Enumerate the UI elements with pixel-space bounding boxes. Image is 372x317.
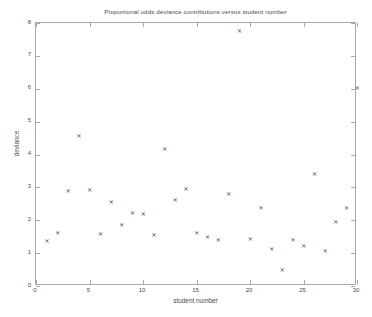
y-tick-2 (36, 220, 40, 221)
x-tick-20 (250, 280, 251, 284)
y-tick-label-1: 1 (17, 249, 31, 255)
y-tick-label-6: 6 (17, 84, 31, 90)
data-point (322, 249, 327, 254)
data-point (108, 200, 113, 205)
y-tick-right-2 (351, 220, 355, 221)
data-point (55, 231, 60, 236)
data-point (290, 238, 295, 243)
data-point (130, 211, 135, 216)
x-tick-top-10 (143, 23, 144, 27)
y-tick-right-7 (351, 56, 355, 57)
y-tick-label-0: 0 (17, 282, 31, 288)
x-tick-25 (304, 280, 305, 284)
x-tick-5 (90, 280, 91, 284)
x-tick-top-20 (250, 23, 251, 27)
data-point (162, 147, 167, 152)
y-tick-label-2: 2 (17, 216, 31, 222)
y-tick-8 (36, 23, 40, 24)
x-tick-top-30 (357, 23, 358, 27)
data-point (183, 187, 188, 192)
y-tick-right-4 (351, 155, 355, 156)
data-point (205, 235, 210, 240)
data-point (119, 223, 124, 228)
x-tick-0 (36, 280, 37, 284)
x-tick-top-25 (304, 23, 305, 27)
y-tick-7 (36, 56, 40, 57)
y-tick-1 (36, 253, 40, 254)
x-tick-10 (143, 280, 144, 284)
y-tick-label-8: 8 (17, 19, 31, 25)
x-tick-label-10: 10 (132, 287, 152, 293)
data-point (98, 232, 103, 237)
chart-title: Proportional odds deviance contributions… (35, 8, 356, 15)
y-tick-right-1 (351, 253, 355, 254)
data-point (87, 188, 92, 193)
data-point (194, 231, 199, 236)
x-tick-15 (197, 280, 198, 284)
data-point (312, 172, 317, 177)
data-point (248, 237, 253, 242)
data-point (76, 134, 81, 139)
y-tick-label-3: 3 (17, 183, 31, 189)
y-tick-5 (36, 122, 40, 123)
y-tick-6 (36, 89, 40, 90)
y-tick-right-8 (351, 23, 355, 24)
y-tick-right-3 (351, 187, 355, 188)
figure-canvas: Proportional odds deviance contributions… (0, 0, 372, 317)
y-tick-3 (36, 187, 40, 188)
data-point (355, 86, 360, 91)
y-tick-4 (36, 155, 40, 156)
x-tick-label-15: 15 (186, 287, 206, 293)
y-tick-right-5 (351, 122, 355, 123)
y-tick-label-4: 4 (17, 150, 31, 156)
data-point (66, 189, 71, 194)
x-tick-label-25: 25 (293, 287, 313, 293)
data-point (280, 268, 285, 273)
x-tick-top-15 (197, 23, 198, 27)
data-point (151, 233, 156, 238)
data-point (44, 239, 49, 244)
data-point (173, 198, 178, 203)
x-tick-label-30: 30 (346, 287, 366, 293)
x-tick-label-5: 5 (79, 287, 99, 293)
data-point (258, 206, 263, 211)
data-point (301, 244, 306, 249)
data-point (141, 212, 146, 217)
data-point (344, 206, 349, 211)
data-point (215, 238, 220, 243)
x-tick-label-20: 20 (239, 287, 259, 293)
x-axis-label: student number (35, 297, 356, 304)
data-point (237, 29, 242, 34)
x-tick-30 (357, 280, 358, 284)
x-tick-label-0: 0 (25, 287, 45, 293)
data-point (269, 247, 274, 252)
data-point (333, 220, 338, 225)
y-tick-label-5: 5 (17, 117, 31, 123)
y-tick-label-7: 7 (17, 51, 31, 57)
plot-area (35, 22, 356, 285)
x-tick-top-5 (90, 23, 91, 27)
data-point (226, 192, 231, 197)
